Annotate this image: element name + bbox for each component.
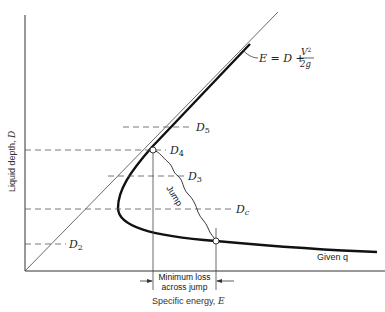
d2-label: D2	[68, 238, 83, 252]
arrowhead-left	[147, 279, 153, 283]
d5-label: D5	[195, 121, 210, 135]
arrowhead-right	[216, 279, 222, 283]
min-loss-label-line1: Minimum loss	[159, 272, 211, 282]
given-q-label: Given q	[317, 252, 348, 262]
equation-lhs: E = D +	[258, 52, 305, 65]
specific-energy-curve	[118, 44, 377, 252]
dc-label: Dc	[235, 203, 250, 217]
min-loss-label-line2: across jump	[162, 282, 208, 292]
upper-depth-point	[150, 147, 156, 153]
x-axis-label: Specific energy, E	[152, 296, 225, 306]
jump-wavy-line	[153, 150, 216, 241]
d4-label: D4	[169, 144, 184, 158]
equation-leader	[243, 50, 258, 58]
equation-numerator: V2	[301, 46, 312, 57]
y-axis-label: Liquid depth, D	[7, 131, 17, 192]
d3-label: D3	[187, 170, 202, 184]
equation-denominator: 2g	[299, 59, 311, 69]
jump-label: Jump	[164, 184, 184, 208]
lower-depth-point	[213, 238, 219, 244]
specific-energy-diagram: D5 D4 D3 Dc D2 E = D + V2 2g Jump Given …	[0, 0, 385, 312]
